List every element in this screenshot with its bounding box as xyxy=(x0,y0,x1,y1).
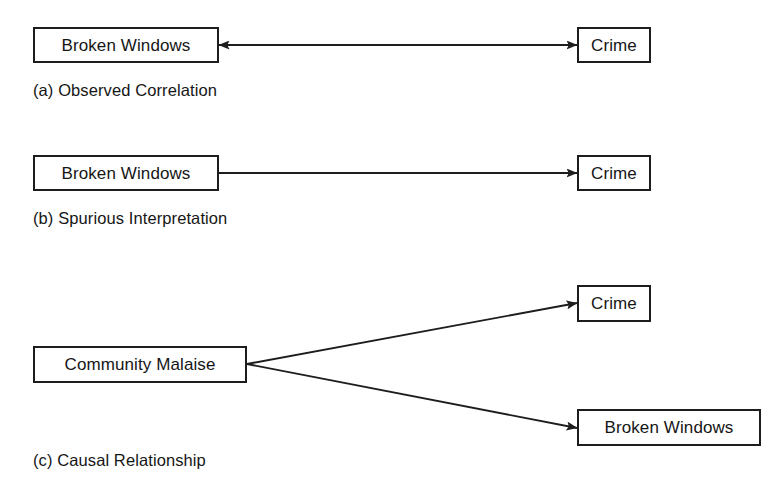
node-label: Crime xyxy=(591,37,637,54)
causal-diagram-figure: Broken Windows Crime (a) Observed Correl… xyxy=(0,0,779,492)
caption-panel-c: (c) Causal Relationship xyxy=(33,452,206,469)
node-c-broken-windows: Broken Windows xyxy=(577,409,761,446)
edge-c-malaise-to-crime xyxy=(247,303,577,364)
node-b-crime: Crime xyxy=(577,155,651,191)
node-label: Broken Windows xyxy=(62,37,191,54)
node-c-crime: Crime xyxy=(577,285,651,322)
node-label: Broken Windows xyxy=(62,165,191,182)
caption-panel-a: (a) Observed Correlation xyxy=(33,82,217,99)
node-label: Crime xyxy=(591,295,637,312)
node-a-broken-windows: Broken Windows xyxy=(33,27,219,63)
caption-panel-b: (b) Spurious Interpretation xyxy=(33,210,227,227)
node-label: Community Malaise xyxy=(65,356,216,373)
node-b-broken-windows: Broken Windows xyxy=(33,155,219,191)
node-c-community-malaise: Community Malaise xyxy=(33,346,247,383)
node-label: Crime xyxy=(591,165,637,182)
node-label: Broken Windows xyxy=(605,419,734,436)
node-a-crime: Crime xyxy=(577,27,651,63)
edge-c-malaise-to-broken-windows xyxy=(247,364,577,428)
